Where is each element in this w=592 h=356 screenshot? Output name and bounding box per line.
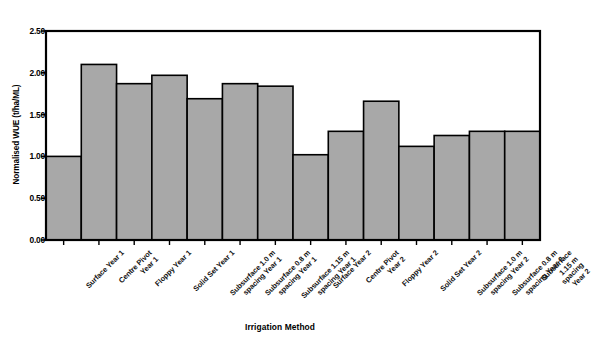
x-axis-title: Irrigation Method <box>0 322 560 332</box>
x-axis-tick-label: Solid Set Year 1 <box>191 249 236 294</box>
x-axis-tick-label: Surface Year 1 <box>84 249 126 291</box>
x-axis-tick-label: Floppy Year 2 <box>401 249 440 288</box>
x-axis-tick-label: Solid Set Year 2 <box>438 249 483 294</box>
x-axis-tick-label: Floppy Year 1 <box>154 249 193 288</box>
